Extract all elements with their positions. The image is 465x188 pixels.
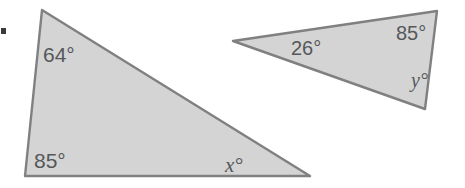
angle-label-64: 64° — [43, 44, 75, 65]
angle-label-26: 26° — [291, 38, 321, 58]
angle-label-85-right-triangle: 85° — [396, 23, 426, 43]
angle-label-x-unknown: x° — [225, 155, 243, 176]
geometry-figure: 64° 85° x° 26° 85° y° — [0, 0, 465, 188]
bullet-marker-icon — [1, 28, 6, 34]
angle-label-85-left-triangle: 85° — [34, 150, 66, 171]
angle-label-y-unknown: y° — [411, 70, 428, 90]
